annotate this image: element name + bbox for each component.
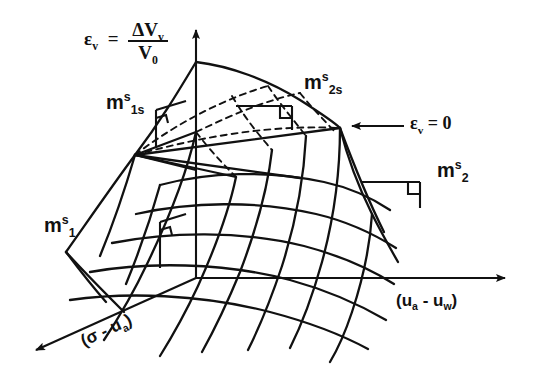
zero-strain-epsilon: ε — [410, 113, 418, 133]
m2ss-sub: 2s — [329, 83, 343, 97]
horizontal-axis-label: (ua - uw) — [396, 292, 457, 309]
depth-curve-1 — [104, 132, 196, 340]
edge-left-outer — [66, 155, 135, 252]
m2s-sup: s — [455, 158, 462, 172]
left-mesh-2 — [126, 185, 160, 284]
zero-strain-label: εv = 0 — [410, 114, 452, 132]
edge-right-front — [340, 128, 384, 232]
m1s-label: ms1 — [44, 215, 76, 235]
ha-open: (u — [396, 291, 412, 310]
m2s-base: m — [437, 159, 455, 181]
m2ss-sup: s — [322, 70, 329, 84]
m2ss-indicator — [236, 106, 292, 130]
iso-curve-2 — [136, 204, 396, 248]
ha-sub-w: w — [443, 300, 451, 312]
m1s-sub: 1 — [69, 226, 76, 240]
fraction-numerator: ΔVv — [128, 20, 168, 42]
fraction-denominator: V0 — [128, 42, 168, 62]
m1ss-sub: 1s — [131, 103, 145, 117]
m2ss-label: ms2s — [304, 72, 343, 92]
zero-strain-value: = 0 — [423, 113, 451, 133]
left-mesh-3 — [66, 252, 106, 302]
tangent-line-a — [135, 128, 340, 155]
m1ss-base: m — [106, 91, 124, 113]
vertical-axis-label: εv = ΔVv V0 — [84, 20, 168, 62]
m1ss-label: ms1s — [106, 92, 145, 112]
m1s-sup: s — [62, 213, 69, 227]
iso-curve-3 — [112, 234, 394, 284]
ha-close: ) — [452, 291, 458, 310]
depth-curve-5 — [290, 128, 340, 348]
epsilon-symbol: εv — [84, 28, 98, 49]
strain-fraction: ΔVv V0 — [128, 20, 168, 62]
m1s-indicator — [160, 214, 186, 268]
equals-sign: = — [108, 28, 119, 49]
depth-curve-4 — [248, 136, 306, 350]
m2s-label: ms2 — [437, 160, 469, 180]
m1ss-sup: s — [124, 90, 131, 104]
edge-left-lower — [66, 252, 124, 312]
figure-canvas: εv = ΔVv V0 ms1s ms2s ms2 ms1 εv = 0 (ua… — [0, 0, 543, 389]
m2ss-base: m — [304, 71, 322, 93]
m2s-sub: 2 — [462, 171, 469, 185]
m1s-base: m — [44, 214, 62, 236]
ha-minus: - u — [418, 291, 444, 310]
iso-curve-4 — [90, 265, 386, 320]
